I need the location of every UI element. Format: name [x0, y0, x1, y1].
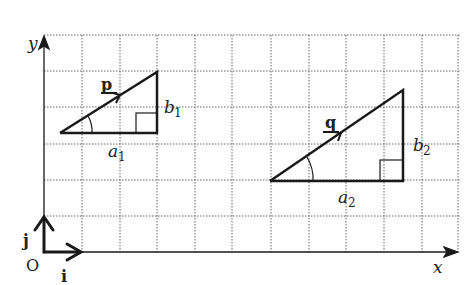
origin-label: O — [26, 256, 39, 275]
svg-text:2: 2 — [348, 196, 356, 210]
triangle-2 — [270, 90, 403, 181]
x-axis-label: x — [433, 257, 443, 277]
i-label: i — [61, 267, 67, 285]
angle-arc-1 — [88, 116, 92, 133]
y-axis-label: y — [27, 33, 38, 53]
b2-label: b 2 — [413, 135, 431, 158]
a2-label: a 2 — [338, 187, 356, 210]
unit-vectors — [35, 217, 81, 260]
axes — [39, 36, 458, 257]
right-angle-marker-1 — [136, 113, 157, 133]
svg-text:2: 2 — [423, 144, 431, 158]
svg-text:1: 1 — [174, 106, 182, 120]
vector-p-label: p — [101, 75, 112, 94]
j-label: j — [21, 231, 29, 250]
right-angle-marker-2 — [380, 160, 403, 181]
angle-arc-2 — [307, 157, 313, 181]
svg-text:1: 1 — [118, 150, 126, 164]
vector-q-label: q — [325, 113, 336, 132]
svg-text:a: a — [338, 187, 348, 207]
vector-diagram: x y O i j p a 1 b 1 q a 2 b 2 — [0, 0, 464, 285]
b1-label: b 1 — [164, 97, 182, 120]
grid — [44, 35, 460, 252]
svg-text:a: a — [108, 141, 118, 161]
